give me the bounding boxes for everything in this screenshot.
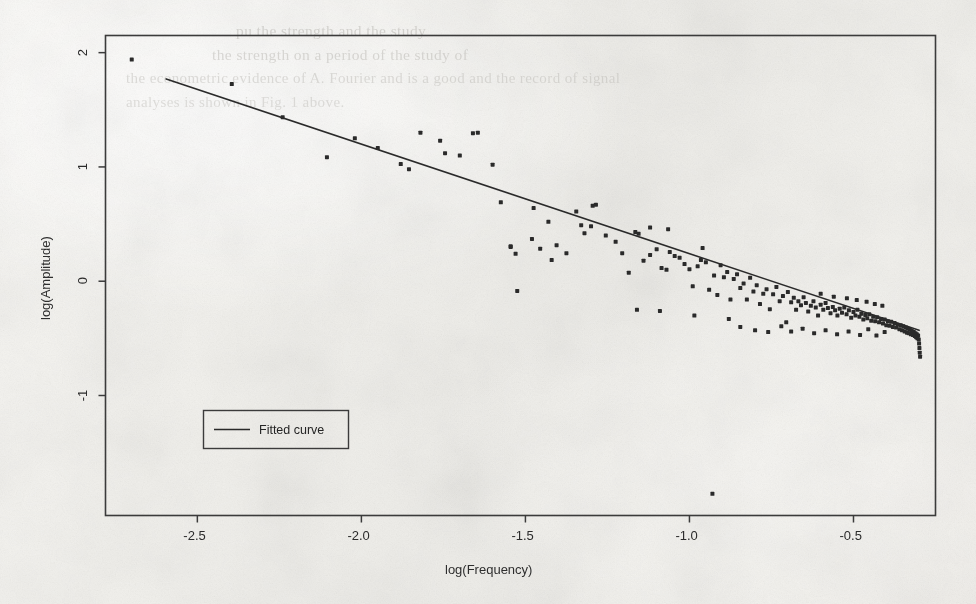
y-tick-label: 0 xyxy=(74,271,89,291)
x-tick-label: -1.0 xyxy=(675,528,697,543)
y-tick-label: 2 xyxy=(74,42,89,62)
plot-frame xyxy=(106,36,936,516)
x-axis-tick-marks xyxy=(197,516,853,523)
y-axis-tick-marks xyxy=(99,53,106,396)
x-tick-label: -1.5 xyxy=(511,528,533,543)
y-tick-label: -1 xyxy=(74,385,89,405)
y-axis-title: log(Amplitude) xyxy=(38,236,53,320)
x-tick-label: -0.5 xyxy=(839,528,861,543)
plot-canvas xyxy=(0,0,976,604)
x-tick-label: -2.5 xyxy=(183,528,205,543)
chart-figure: Fitted curve log(Frequency) log(Amplitud… xyxy=(0,0,976,604)
fitted-curve-line xyxy=(166,79,919,330)
x-axis-title: log(Frequency) xyxy=(445,562,532,577)
legend-entry-label: Fitted curve xyxy=(259,423,324,437)
y-tick-label: 1 xyxy=(74,156,89,176)
x-tick-label: -2.0 xyxy=(347,528,369,543)
